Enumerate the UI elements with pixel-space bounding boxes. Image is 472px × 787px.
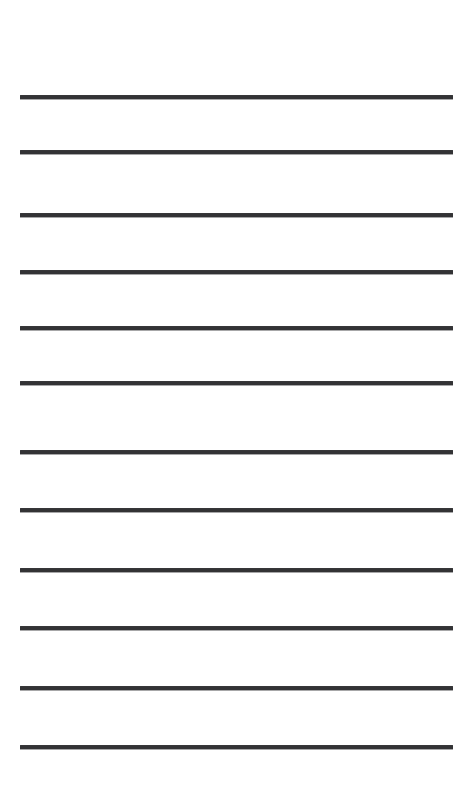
writing-line-5 [20, 326, 453, 330]
writing-line-7 [20, 450, 453, 454]
lined-paper-sheet [0, 0, 472, 787]
writing-line-4 [20, 270, 453, 274]
writing-line-10 [20, 626, 453, 630]
writing-line-8 [20, 508, 453, 512]
writing-line-9 [20, 568, 453, 572]
writing-line-1 [20, 95, 453, 99]
writing-line-2 [20, 150, 453, 154]
writing-line-6 [20, 381, 453, 385]
writing-line-11 [20, 686, 453, 690]
writing-line-3 [20, 213, 453, 217]
writing-line-12 [20, 745, 453, 749]
